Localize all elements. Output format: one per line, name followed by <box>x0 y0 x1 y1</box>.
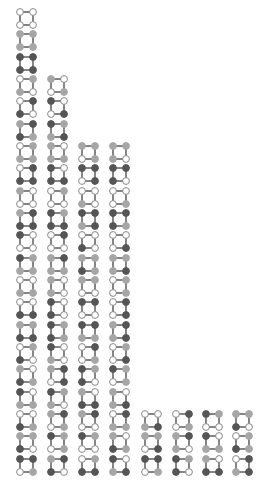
graph-node <box>110 277 117 284</box>
graph-node <box>79 255 86 262</box>
graph-node <box>123 232 130 239</box>
graph-node <box>186 424 193 431</box>
graph-node <box>92 188 99 195</box>
graph-node <box>79 446 86 453</box>
graph-node <box>203 433 210 440</box>
graph-glyph <box>16 75 38 97</box>
graph-node <box>110 210 117 217</box>
graph-node <box>48 366 55 373</box>
graph-node <box>61 232 68 239</box>
graph-glyph <box>78 343 100 365</box>
graph-node <box>48 165 55 172</box>
graph-node <box>48 322 55 329</box>
graph-node <box>79 411 86 418</box>
graph-glyph <box>16 8 38 30</box>
graph-glyph <box>16 53 38 75</box>
graph-node <box>17 143 24 150</box>
graph-node <box>123 402 130 409</box>
graph-node <box>48 379 55 386</box>
graph-node <box>17 469 24 476</box>
graph-node <box>186 456 193 463</box>
graph-node <box>30 290 37 297</box>
graph-node <box>92 255 99 262</box>
graph-node <box>92 178 99 185</box>
graph-glyph <box>78 142 100 164</box>
graph-node <box>30 312 37 319</box>
graph-glyph <box>47 432 69 454</box>
graph-node <box>61 156 68 163</box>
graph-node <box>142 469 149 476</box>
graph-glyph <box>109 321 131 343</box>
graph-glyph <box>109 455 131 477</box>
graph-node <box>48 178 55 185</box>
graph-node <box>79 299 86 306</box>
graph-node <box>216 469 223 476</box>
graph-node <box>92 312 99 319</box>
graph-node <box>155 433 162 440</box>
graph-node <box>61 201 68 208</box>
graph-glyph <box>109 276 131 298</box>
graph-node <box>92 223 99 230</box>
graph-node <box>123 277 130 284</box>
graph-node <box>110 312 117 319</box>
graph-node <box>30 165 37 172</box>
graph-node <box>48 143 55 150</box>
graph-node <box>246 446 253 453</box>
graph-node <box>17 31 24 38</box>
graph-node <box>142 456 149 463</box>
graph-glyph <box>16 410 38 432</box>
graph-node <box>48 134 55 141</box>
graph-node <box>233 456 240 463</box>
graph-node <box>48 210 55 217</box>
graph-node <box>17 402 24 409</box>
graph-node <box>30 143 37 150</box>
graph-node <box>17 44 24 51</box>
graph-glyph <box>16 343 38 365</box>
graph-node <box>110 299 117 306</box>
graph-glyph <box>172 455 194 477</box>
graph-node <box>30 299 37 306</box>
graph-glyph <box>109 410 131 432</box>
graph-node <box>110 456 117 463</box>
graph-node <box>233 411 240 418</box>
graph-node <box>79 143 86 150</box>
graph-node <box>79 188 86 195</box>
graph-glyph <box>16 97 38 119</box>
graph-glyph <box>78 276 100 298</box>
graph-node <box>123 299 130 306</box>
graph-node <box>30 433 37 440</box>
graph-node <box>17 344 24 351</box>
graph-node <box>61 290 68 297</box>
graph-node <box>61 121 68 128</box>
graph-node <box>48 299 55 306</box>
graph-node <box>30 424 37 431</box>
graph-glyph <box>109 164 131 186</box>
graph-node <box>79 223 86 230</box>
graph-node <box>30 366 37 373</box>
graph-node <box>48 424 55 431</box>
graph-glyph <box>109 298 131 320</box>
graph-glyph <box>78 187 100 209</box>
graph-glyph <box>109 209 131 231</box>
graph-glyph <box>109 388 131 410</box>
graph-node <box>30 201 37 208</box>
graph-glyph <box>16 30 38 52</box>
graph-glyph <box>78 388 100 410</box>
graph-node <box>48 335 55 342</box>
graph-glyph <box>47 276 69 298</box>
graph-node <box>123 335 130 342</box>
graph-glyph <box>16 120 38 142</box>
graph-glyph <box>47 75 69 97</box>
graph-node <box>30 379 37 386</box>
graph-node <box>123 469 130 476</box>
graph-glyph <box>78 321 100 343</box>
graph-node <box>61 402 68 409</box>
graph-node <box>61 134 68 141</box>
graph-glyph <box>78 254 100 276</box>
graph-glyph <box>78 455 100 477</box>
graph-glyph <box>47 97 69 119</box>
graph-glyph <box>47 254 69 276</box>
graph-node <box>48 290 55 297</box>
graph-node <box>110 344 117 351</box>
graph-glyph <box>16 142 38 164</box>
